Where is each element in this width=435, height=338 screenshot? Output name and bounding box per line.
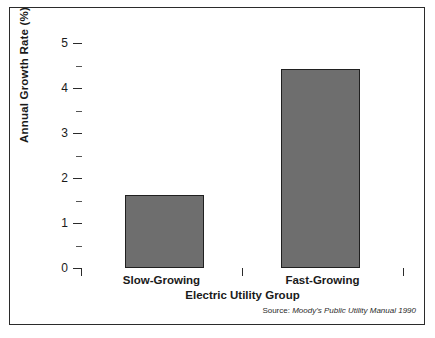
y-minor-tick-4-5 <box>76 66 82 67</box>
y-tick-mark-4 <box>73 88 82 89</box>
source-note: Source: Moody's Public Utility Manual 19… <box>262 306 416 315</box>
y-tick-label-2: 2 <box>38 172 68 184</box>
bar-fast-growing[interactable] <box>281 69 360 268</box>
y-minor-tick-2-5 <box>76 156 82 157</box>
x-tick-mark-left <box>81 268 82 276</box>
y-tick-mark-1 <box>73 223 82 224</box>
bar-slow-growing[interactable] <box>125 195 204 268</box>
x-tick-label-fast-growing: Fast-Growing <box>245 274 400 286</box>
y-minor-tick-0-5 <box>76 246 82 247</box>
y-tick-mark-3 <box>73 133 82 134</box>
y-tick-label-0: 0 <box>38 262 68 274</box>
y-tick-label-4: 4 <box>38 82 68 94</box>
figure-container: Annual Growth Rate (%) 5 4 3 2 1 0 Slow-… <box>0 0 435 338</box>
y-minor-tick-1-5 <box>76 201 82 202</box>
x-axis-title: Electric Utility Group <box>81 289 404 301</box>
y-tick-mark-5 <box>73 43 82 44</box>
y-tick-mark-2 <box>73 178 82 179</box>
x-tick-mark-middle <box>242 268 243 276</box>
y-tick-label-1: 1 <box>38 217 68 229</box>
y-minor-tick-3-5 <box>76 111 82 112</box>
x-tick-mark-right <box>403 268 404 276</box>
source-label: Source: <box>262 306 290 315</box>
y-axis-title: Annual Growth Rate (%) <box>18 0 36 175</box>
source-reference: Moody's Public Utility Manual 1990 <box>292 306 416 315</box>
x-tick-label-slow-growing: Slow-Growing <box>84 274 239 286</box>
y-tick-label-3: 3 <box>38 127 68 139</box>
y-tick-label-5: 5 <box>38 37 68 49</box>
